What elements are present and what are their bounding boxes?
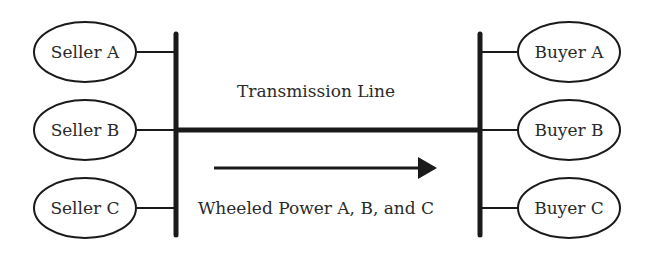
buyer-c-node: Buyer C: [518, 178, 620, 238]
power-flow-arrow-icon: [214, 157, 437, 179]
wheeled-power-label: Wheeled Power A, B, and C: [198, 198, 434, 218]
seller-b-label: Seller B: [51, 120, 120, 140]
wheeling-diagram: Seller A Seller B Seller C Buyer A Buyer…: [0, 0, 657, 261]
seller-c-label: Seller C: [50, 198, 119, 218]
seller-b-node: Seller B: [34, 100, 136, 160]
buyer-b-node: Buyer B: [518, 100, 620, 160]
seller-c-node: Seller C: [34, 178, 136, 238]
buyer-b-label: Buyer B: [534, 120, 603, 140]
transmission-line-label: Transmission Line: [237, 81, 395, 101]
buyer-a-node: Buyer A: [518, 22, 620, 82]
seller-a-node: Seller A: [34, 22, 136, 82]
buyer-c-label: Buyer C: [534, 198, 604, 218]
seller-a-label: Seller A: [51, 42, 120, 62]
buyer-a-label: Buyer A: [535, 42, 605, 62]
